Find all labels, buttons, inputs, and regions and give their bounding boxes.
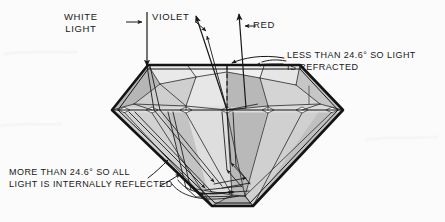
label-red: RED bbox=[253, 19, 275, 31]
label-violet: VIOLET bbox=[152, 11, 189, 23]
label-refracted-note: LESS THAN 24.6° SO LIGHT IS REFRACTED bbox=[287, 49, 416, 73]
label-white-light: WHITE LIGHT bbox=[64, 11, 98, 34]
diamond-refraction-figure: WHITE LIGHT VIOLET RED LESS THAN 24.6° S… bbox=[0, 0, 445, 222]
label-reflected-note: MORE THAN 24.6° SO ALL LIGHT IS INTERNAL… bbox=[9, 166, 173, 190]
